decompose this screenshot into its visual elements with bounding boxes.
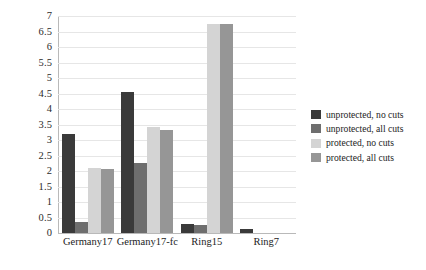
bar[interactable] [181,224,194,233]
legend-swatch-icon [311,139,321,148]
bar[interactable] [88,168,101,233]
legend-item-label: protected, all cuts [326,153,394,163]
bar[interactable] [101,169,114,233]
y-axis-tick-label: 0 [10,228,52,239]
y-axis-tick-label: 6.5 [10,26,52,37]
gridline [58,233,296,234]
bar[interactable] [240,229,253,233]
x-axis-category-labels: Germany17Germany17-fcRing15Ring7 [58,236,296,256]
y-axis-tick-label: 2.5 [10,150,52,161]
y-axis-tick-label: 3.5 [10,119,52,130]
legend-item-label: unprotected, all cuts [326,124,404,134]
plot-area [58,16,296,233]
legend-swatch-icon [311,110,321,119]
x-axis-category-label: Germany17-fc [117,236,178,248]
x-axis-category-label: Germany17 [63,236,113,248]
bar[interactable] [160,130,173,233]
y-axis-tick-labels: 00.511.522.533.544.555.566.57 [8,16,52,233]
y-axis-tick-label: 6 [10,42,52,53]
legend-swatch-icon [311,153,321,162]
y-axis-tick-label: 4 [10,104,52,115]
y-axis-tick-label: 1.5 [10,181,52,192]
bar-chart: 00.511.522.533.544.555.566.57 Germany17G… [0,0,426,270]
x-axis-category-label: Ring15 [191,236,222,248]
bar[interactable] [134,163,147,233]
legend-item-label: protected, no cuts [326,138,394,148]
bar[interactable] [220,24,233,233]
bar-group [121,16,173,233]
legend-item-label: unprotected, no cuts [326,110,404,120]
y-axis-tick-label: 4.5 [10,88,52,99]
bar-group [181,16,233,233]
legend-item[interactable]: unprotected, no cuts [311,108,423,122]
y-axis-tick-label: 5 [10,73,52,84]
bar[interactable] [194,225,207,233]
bars-layer [58,16,296,233]
bar[interactable] [121,92,134,233]
y-axis-tick-label: 2 [10,166,52,177]
bar[interactable] [147,127,160,233]
y-axis-tick-label: 5.5 [10,57,52,68]
legend-item[interactable]: unprotected, all cuts [311,122,423,136]
bar[interactable] [75,222,88,233]
legend-item[interactable]: protected, all cuts [311,151,423,165]
bar[interactable] [207,24,220,233]
x-axis-category-label: Ring7 [253,236,279,248]
bar-group [62,16,114,233]
bar[interactable] [62,134,75,233]
legend-item[interactable]: protected, no cuts [311,136,423,150]
y-axis-tick-label: 3 [10,135,52,146]
y-axis-tick-label: 7 [10,11,52,22]
legend-swatch-icon [311,124,321,133]
y-axis-tick-label: 0.5 [10,212,52,223]
y-axis-tick-label: 1 [10,197,52,208]
bar-group [240,16,292,233]
legend: unprotected, no cutsunprotected, all cut… [311,108,423,165]
